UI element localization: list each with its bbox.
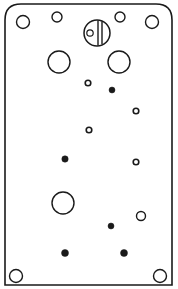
open-holes (10, 12, 167, 283)
filled-dot-5 (121, 250, 128, 257)
filled-dot-3 (108, 223, 114, 229)
hole-top-small-right (115, 12, 125, 22)
hole-medium-right (137, 212, 146, 221)
filled-dot-2 (62, 156, 68, 162)
hole-small-3 (86, 127, 92, 133)
hole-top-small-left (52, 12, 62, 22)
plate-outline (5, 4, 172, 285)
hole-corner-top-left (17, 16, 30, 29)
hole-large-right (108, 51, 130, 73)
screw (84, 20, 110, 46)
filled-dot-1 (109, 87, 115, 93)
filled-dot-4 (62, 250, 69, 257)
diagram-canvas (0, 0, 178, 289)
hole-large-left (48, 51, 70, 73)
hole-small-1 (85, 80, 91, 86)
screw-small-hole (87, 30, 93, 36)
hole-corner-top-right (146, 16, 159, 29)
hole-small-4 (133, 159, 139, 165)
hole-large-bottom (52, 192, 74, 214)
hole-small-2 (133, 108, 139, 114)
hole-corner-bottom-right (154, 270, 167, 283)
filled-holes (62, 87, 128, 257)
mounting-plate-diagram (0, 0, 178, 289)
hole-corner-bottom-left (10, 270, 23, 283)
